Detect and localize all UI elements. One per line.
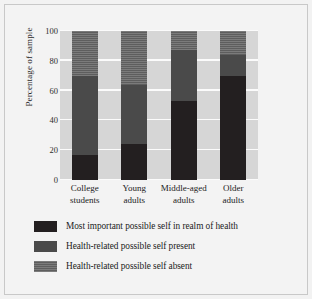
legend-swatch-light [34, 261, 57, 272]
x-tick-line: students [70, 195, 100, 207]
legend-label: Most important possible self in realm of… [66, 221, 238, 231]
bar-segment [171, 50, 197, 101]
x-tick-line: Older [223, 183, 245, 195]
x-tick-line: adults [122, 195, 146, 207]
x-tick-line: adults [161, 195, 207, 207]
plot-area [60, 31, 258, 180]
y-tick-40: 40 [50, 115, 59, 125]
bar-segment [220, 31, 246, 55]
bar-middle-aged-adults [171, 31, 197, 180]
x-tick-older-adults: Olderadults [223, 183, 245, 206]
bar-segment [121, 31, 147, 85]
x-tick-middle-aged-adults: Middle-agedadults [161, 183, 207, 206]
x-tick-line: Young [122, 183, 146, 195]
x-tick-line: College [70, 183, 100, 195]
legend-item[interactable]: Most important possible self in realm of… [34, 216, 309, 236]
y-tick-0: 0 [54, 175, 58, 185]
bar-segment [121, 144, 147, 180]
bar-older-adults [220, 31, 246, 180]
chart-legend: Most important possible self in realm of… [34, 216, 309, 276]
bar-segment [121, 85, 147, 145]
legend-item[interactable]: Health-related possible self absent [34, 256, 309, 276]
bar-segment [171, 31, 197, 50]
bar-college-students [72, 31, 98, 180]
bar-segment [171, 101, 197, 180]
y-tick-80: 80 [50, 56, 59, 66]
bar-segment [72, 31, 98, 76]
legend-label: Health-related possible self present [66, 241, 195, 251]
bar-segment [72, 76, 98, 155]
y-axis-label: Percentage of sample [24, 2, 34, 132]
y-tick-60: 60 [50, 86, 59, 96]
legend-label: Health-related possible self absent [66, 261, 192, 271]
x-tick-line: adults [223, 195, 245, 207]
y-tick-100: 100 [45, 26, 58, 36]
x-axis-tick-labels: CollegestudentsYoungadultsMiddle-agedadu… [60, 183, 258, 213]
y-tick-20: 20 [50, 145, 59, 155]
y-axis-tick-labels: 020406080100 [36, 31, 58, 180]
x-tick-college-students: Collegestudents [70, 183, 100, 206]
legend-swatch-black [34, 221, 57, 232]
x-tick-young-adults: Youngadults [122, 183, 146, 206]
bar-segment [220, 55, 246, 76]
chart-figure: Percentage of sample 020406080100 Colleg… [0, 0, 312, 299]
bar-segment [72, 155, 98, 180]
bar-young-adults [121, 31, 147, 180]
bar-segment [220, 76, 246, 180]
x-tick-line: Middle-aged [161, 183, 207, 195]
legend-swatch-mid [34, 241, 57, 252]
legend-item[interactable]: Health-related possible self present [34, 236, 309, 256]
